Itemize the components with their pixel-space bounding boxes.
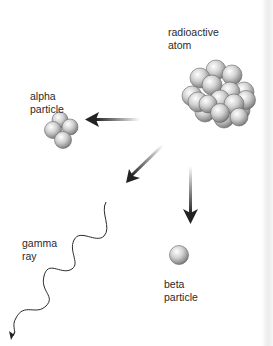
arrow-to-alpha (85, 112, 140, 127)
arrow-to-gamma (126, 145, 163, 183)
alpha-particle-icon (45, 112, 79, 149)
arrow-to-beta (183, 166, 198, 224)
label-beta-particle: beta particle (164, 278, 198, 303)
beta-particle-icon (170, 246, 189, 265)
radioactive-atom-icon (182, 60, 256, 128)
label-gamma-ray: gamma ray (22, 237, 57, 262)
label-radioactive-atom: radioactive atom (168, 26, 219, 51)
gamma-ray-wave (9, 202, 107, 340)
decay-diagram (0, 0, 273, 346)
label-alpha-particle: alpha particle (30, 90, 64, 115)
